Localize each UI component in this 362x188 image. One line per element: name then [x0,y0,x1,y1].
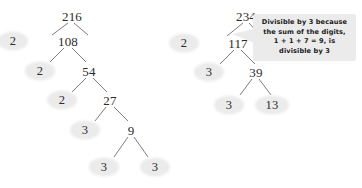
tree-branch [93,78,107,92]
composite-node: 27 [103,94,116,107]
prime-factor-node: 3 [142,160,168,175]
factor-tree-figure: 216210825422739332342117339313 Divisible… [0,0,362,188]
composite-node: 54 [82,65,95,78]
tree-branch [114,107,128,121]
tree-branch [72,48,86,62]
tree-branch [240,79,252,95]
divisibility-callout: Divisible by 3 because the sum of the di… [253,14,356,61]
node-value: 3 [226,99,232,112]
prime-factor-node: 3 [216,98,242,113]
node-value: 3 [152,161,158,174]
tree-branch [220,50,234,64]
tree-branch [114,137,128,157]
tree-branch [72,78,86,92]
node-value: 2 [59,94,65,107]
callout-line: divisible by 3 [259,47,350,57]
prime-factor-node: 2 [0,34,26,49]
node-value: 13 [266,99,279,112]
tree-branch [95,107,106,121]
tree-branch [259,79,271,95]
tree-branch [50,48,64,62]
prime-factor-node: 2 [27,64,53,79]
prime-factor-node: 3 [196,65,222,80]
prime-factor-node: 2 [171,36,197,51]
callout-line: 1 + 1 + 7 = 9, is [259,37,350,47]
callout-pointer-icon [232,29,254,43]
node-value: 2 [37,65,43,78]
composite-node: 9 [128,124,135,137]
node-value: 3 [101,161,107,174]
prime-factor-node: 13 [257,98,287,113]
callout-line: Divisible by 3 because [259,18,350,28]
node-value: 3 [206,66,212,79]
prime-factor-node: 3 [91,160,117,175]
callout-line: the sum of the digits, [259,28,350,38]
prime-factor-node: 3 [72,123,98,138]
node-value: 2 [10,35,16,48]
node-value: 3 [82,124,88,137]
tree-branch [134,137,148,157]
node-value: 2 [181,37,187,50]
composite-node: 108 [58,35,78,48]
composite-node: 39 [249,66,262,79]
tree-root-node: 216 [62,10,82,23]
prime-factor-node: 2 [49,93,75,108]
